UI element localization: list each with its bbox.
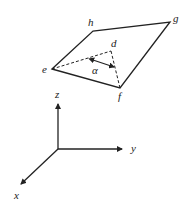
- label-y-axis: y: [130, 142, 136, 154]
- label-e: e: [42, 63, 47, 75]
- label-x-axis: x: [13, 189, 19, 201]
- x-axis: [21, 149, 58, 184]
- label-alpha: α: [92, 64, 98, 76]
- label-z-axis: z: [54, 88, 60, 100]
- plane-quadrilateral: [52, 22, 170, 88]
- dashed-edge-df: [111, 51, 120, 88]
- label-g: g: [173, 12, 179, 24]
- label-h: h: [88, 16, 94, 28]
- diagram-canvas: e f g h d α z y x: [0, 0, 193, 208]
- label-d: d: [111, 37, 117, 49]
- label-f: f: [118, 90, 123, 102]
